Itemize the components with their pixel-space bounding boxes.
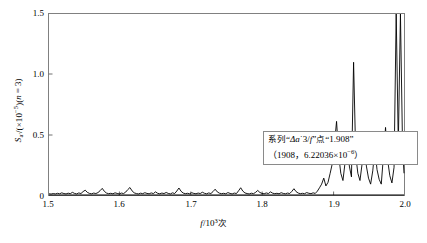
x-axis-ticks: 1.5 1.6 1.7 1.8 1.9 2.0 — [0, 199, 427, 213]
x-tick-label: 1.7 — [176, 199, 206, 209]
callout-coord-sep: ， — [295, 149, 304, 159]
y-tick-label: 0.5 — [18, 131, 44, 140]
y-tick-label: 1.0 — [18, 70, 44, 79]
callout-series-symbol2: 3/ — [303, 134, 310, 144]
callout-coord-times: ×10 — [333, 149, 347, 159]
plot-area — [48, 13, 405, 196]
spectrum-plot — [48, 13, 405, 196]
callout-point-value: “1.908” — [325, 134, 353, 144]
plot-frame — [49, 14, 405, 196]
x-axis-label-divider: /10 — [203, 218, 215, 228]
callout-coord-mantissa: 6.22036 — [304, 149, 333, 159]
y-tick-label: 1.5 — [18, 9, 44, 18]
chart-figure: Sa′/(×10−5)(n = 3) 1.5 1.0 0.5 0 — [0, 0, 427, 243]
callout-paren-close: ） — [354, 149, 363, 159]
x-tick-label: 1.6 — [104, 199, 134, 209]
data-point-callout: 系列“Δa˙3/f”点“1.908” （1908，6.22036×10−6） — [263, 131, 418, 165]
callout-point-word: 点 — [316, 134, 325, 144]
callout-series-symbol: Δa — [290, 134, 300, 144]
callout-paren-open: （ — [268, 149, 277, 159]
callout-line-1: 系列“Δa˙3/f”点“1.908” — [268, 134, 414, 146]
x-tick-label: 1.9 — [319, 199, 349, 209]
x-axis-label-unit: 次 — [218, 218, 227, 228]
callout-coord-x: 1908 — [277, 149, 295, 159]
x-tick-label: 2.0 — [390, 199, 420, 209]
x-tick-label: 1.8 — [247, 199, 277, 209]
x-tick-label: 1.5 — [33, 199, 63, 209]
callout-line-2: （1908，6.22036×10−6） — [268, 146, 414, 161]
callout-series-word: 系列 — [268, 134, 286, 144]
x-axis-label: f/103次 — [0, 216, 427, 228]
